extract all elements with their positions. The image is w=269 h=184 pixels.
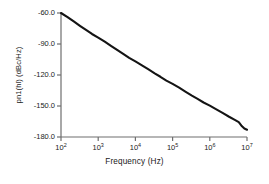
x-tick-label: 107: [241, 144, 252, 152]
y-tick-label: -150.0: [34, 102, 55, 110]
y-axis-title: pn1(hl) (dBc/Hz): [14, 47, 23, 104]
phase-noise-chart-figure: -60.0-90.0-120.0-150.0-180.0 10210310410…: [0, 0, 269, 184]
x-axis-tick-marks: [61, 137, 247, 141]
x-tick-label: 106: [204, 144, 215, 152]
y-tick-label: -60.0: [38, 9, 55, 17]
y-tick-label: -90.0: [38, 40, 55, 48]
x-tick-label: 104: [130, 144, 141, 152]
x-tick-label: 103: [93, 144, 104, 152]
y-tick-label: -120.0: [34, 71, 55, 79]
y-tick-label: -180.0: [34, 133, 55, 141]
data-series-group: [61, 13, 247, 130]
data-series-line: [61, 13, 247, 130]
x-tick-label: 105: [167, 144, 178, 152]
x-tick-label: 102: [55, 144, 66, 152]
x-axis-title: Frequency (Hz): [0, 157, 269, 166]
